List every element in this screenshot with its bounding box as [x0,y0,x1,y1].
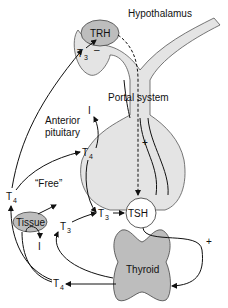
tsh-plus-sign: + [206,236,212,247]
thyroid-axis-diagram: TRH Hypothalamus Portal system + TSH Ant… [0,0,228,308]
svg-text:T: T [77,48,83,59]
thyroid-label: Thyroid [126,264,159,275]
iodide-tissue: I [38,241,41,252]
svg-text:3: 3 [67,227,71,234]
iodide-pituitary: I [88,105,91,116]
svg-text:4: 4 [13,197,17,204]
svg-text:T: T [60,221,66,232]
svg-text:T: T [82,147,88,158]
svg-text:T: T [6,191,12,202]
svg-text:T: T [98,208,104,219]
svg-text:4: 4 [60,284,64,291]
svg-text:3: 3 [105,214,109,221]
svg-text:4: 4 [89,153,93,160]
t3-free: T 3 [60,221,71,234]
hypothalamus-label: Hypothalamus [128,8,192,19]
anterior-pituitary-label-1: Anterior [45,115,81,126]
tsh-label: TSH [128,208,148,219]
anterior-pituitary-label-2: pituitary [45,127,80,138]
free-label: “Free” [35,178,62,189]
t3-pituitary: T 3 [98,208,109,221]
trh-label: TRH [90,28,111,39]
portal-plus-sign: + [142,137,148,148]
t4-thyroid: T 4 [53,278,64,291]
trh-minus-sign: – [94,44,100,55]
t4-free: T 4 [6,191,17,204]
svg-text:3: 3 [84,54,88,61]
svg-text:T: T [53,278,59,289]
